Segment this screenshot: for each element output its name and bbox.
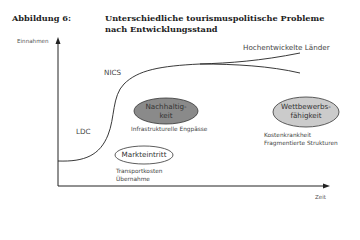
- y-axis-arrow-icon: [56, 37, 61, 44]
- competitiveness-notes: Kostenkrankheit Fragmentierte Strukturen: [264, 131, 338, 147]
- competitiveness-label: Wettbewerbs- fähigkeit: [273, 102, 339, 120]
- sustainability-note: Infrastrukturelle Engpässe: [131, 125, 207, 133]
- stage-label-ldc: LDC: [76, 127, 91, 136]
- development-curve-lower: [200, 64, 300, 73]
- stage-label-developed: Hochentwickelte Länder: [243, 43, 330, 52]
- y-axis-label: Einnahmen: [17, 38, 49, 44]
- x-axis-arrow-icon: [323, 184, 330, 189]
- stage-label-nics: NICS: [104, 68, 121, 77]
- x-axis-label: Zeit: [315, 194, 326, 200]
- market-entry-label: Markteintritt: [115, 150, 173, 159]
- market-entry-notes: Transportkosten Übernahme: [116, 167, 162, 183]
- sustainability-label: Nachhaltig- keit: [134, 102, 198, 120]
